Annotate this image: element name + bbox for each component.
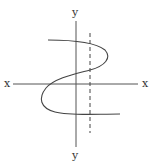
y-axis-label-top: y	[72, 7, 78, 18]
s-shaped-curve	[41, 40, 120, 115]
diagram-canvas: y y x x	[0, 0, 150, 165]
x-axis-label-right: x	[142, 78, 148, 89]
y-axis-label-bottom: y	[72, 150, 78, 161]
x-axis-label-left: x	[4, 78, 10, 89]
graph-svg	[0, 0, 150, 165]
